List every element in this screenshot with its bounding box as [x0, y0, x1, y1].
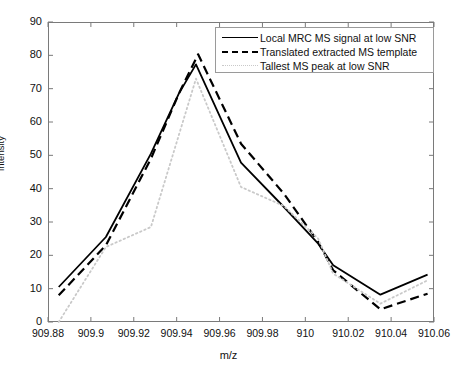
y-axis-tick-label: 10	[12, 283, 42, 294]
y-axis-tick-label: 90	[12, 16, 42, 27]
legend-label: Translated extracted MS template	[260, 46, 417, 58]
y-axis-tick-label: 30	[12, 216, 42, 227]
y-axis-tick-label: 50	[12, 149, 42, 160]
legend-label: Local MRC MS signal at low SNR	[260, 32, 416, 44]
y-axis-tick-label: 60	[12, 116, 42, 127]
y-axis-label: intensity	[0, 136, 6, 171]
legend-swatch-dotted-line-icon	[220, 60, 260, 72]
y-axis-tick-label: 20	[12, 249, 42, 260]
x-axis-tick-label: 910.06	[404, 328, 457, 339]
y-axis-tick-label: 80	[12, 49, 42, 60]
chart-figure: 0102030405060708090 909.88909.9909.92909…	[0, 0, 457, 372]
y-axis-tick-label: 40	[12, 183, 42, 194]
legend-label: Tallest MS peak at low SNR	[260, 60, 390, 72]
chart-legend: Local MRC MS signal at low SNR Translate…	[215, 27, 434, 73]
legend-swatch-solid-line-icon	[220, 32, 260, 44]
x-axis-label: m/z	[0, 349, 457, 361]
y-axis-tick-label: 70	[12, 83, 42, 94]
legend-swatch-dashed-line-icon	[220, 46, 260, 58]
legend-item-translated-template: Translated extracted MS template	[220, 45, 429, 58]
legend-item-local-mrc: Local MRC MS signal at low SNR	[220, 31, 429, 44]
legend-item-tallest-peak: Tallest MS peak at low SNR	[220, 59, 429, 72]
y-axis-tick-label: 0	[12, 316, 42, 327]
